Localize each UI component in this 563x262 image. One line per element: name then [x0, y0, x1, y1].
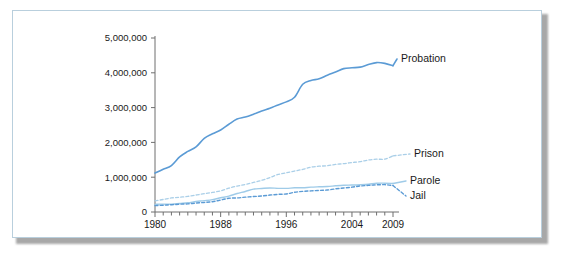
y-tick-label: 5,000,000 [105, 32, 147, 43]
series-leader-probation [393, 59, 397, 66]
series-labels: ProbationPrisonParoleJail [401, 52, 446, 201]
series-leader-prison [393, 154, 410, 156]
y-tick-label: 0 [142, 206, 147, 217]
x-axis-ticks: 19801988199620042009 [144, 212, 405, 230]
y-axis-ticks: 01,000,0002,000,0003,000,0004,000,0005,0… [105, 32, 155, 217]
y-tick-label: 1,000,000 [105, 172, 147, 183]
screenshot-root: 01,000,0002,000,0003,000,0004,000,0005,0… [0, 0, 563, 262]
x-tick-label: 1980 [144, 219, 167, 230]
series-leader-jail [393, 186, 406, 196]
series-label-parole: Parole [410, 174, 441, 186]
x-tick-label: 1996 [275, 219, 298, 230]
series-label-probation: Probation [401, 52, 446, 64]
x-tick-label: 2004 [341, 219, 364, 230]
series-leader-parole [393, 181, 406, 183]
y-tick-label: 2,000,000 [105, 137, 147, 148]
y-tick-label: 4,000,000 [105, 67, 147, 78]
x-tick-label: 1988 [210, 219, 233, 230]
y-tick-label: 3,000,000 [105, 102, 147, 113]
series-line-probation [155, 63, 393, 174]
line-chart: 01,000,0002,000,0003,000,0004,000,0005,0… [0, 0, 563, 262]
chart-plot-area: 01,000,0002,000,0003,000,0004,000,0005,0… [0, 0, 563, 262]
series-label-prison: Prison [414, 147, 444, 159]
series-label-jail: Jail [410, 189, 426, 201]
x-tick-label: 2009 [382, 219, 405, 230]
series-lines [155, 59, 410, 206]
